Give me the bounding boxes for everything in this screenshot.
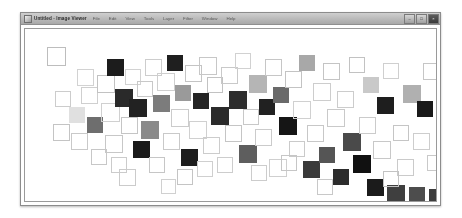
screen: Untitled - Image Viewer FileEditViewTool… [0,0,462,218]
outlined-square[interactable] [349,57,365,73]
outlined-square[interactable] [149,157,165,173]
outlined-square[interactable] [243,109,259,125]
filled-square[interactable] [319,147,335,163]
filled-square[interactable] [229,91,247,109]
filled-square[interactable] [153,95,170,112]
outlined-square[interactable] [91,149,107,165]
filled-square[interactable] [133,141,150,158]
outlined-square[interactable] [427,155,437,171]
filled-square[interactable] [377,97,394,114]
outlined-square[interactable] [97,75,115,93]
outlined-square[interactable] [383,171,399,187]
outlined-square[interactable] [397,159,414,176]
window-title: Untitled - Image Viewer [34,16,87,22]
outlined-square[interactable] [105,135,123,153]
outlined-square[interactable] [55,91,71,107]
filled-square[interactable] [181,149,198,166]
menu-bar[interactable]: FileEditViewToolsLayerFilterWindowHelp [93,16,438,22]
outlined-square[interactable] [197,161,213,177]
outlined-square[interactable] [119,169,136,186]
outlined-square[interactable] [281,155,297,171]
filled-square[interactable] [69,107,85,123]
application-icon [24,15,32,23]
outlined-square[interactable] [137,81,153,97]
outlined-square[interactable] [161,179,176,194]
outlined-square[interactable] [177,169,193,185]
outlined-square[interactable] [203,137,220,154]
outlined-square[interactable] [77,69,94,86]
outlined-square[interactable] [171,109,189,127]
outlined-square[interactable] [307,125,324,142]
outlined-square[interactable] [313,83,331,101]
filled-square[interactable] [211,107,229,125]
outlined-square[interactable] [71,133,88,150]
filled-square[interactable] [343,133,361,151]
outlined-square[interactable] [251,165,267,181]
outlined-square[interactable] [337,91,354,108]
filled-square[interactable] [353,155,371,173]
canvas-area[interactable] [24,28,437,202]
outlined-square[interactable] [81,87,98,104]
filled-square[interactable] [175,85,191,101]
outlined-square[interactable] [235,53,251,69]
outlined-square[interactable] [255,129,272,146]
menu-item-file[interactable]: File [93,16,100,22]
filled-square[interactable] [387,185,405,202]
filled-square[interactable] [107,59,124,76]
filled-square[interactable] [279,117,297,135]
outlined-square[interactable] [413,133,430,150]
application-window: Untitled - Image Viewer FileEditViewTool… [20,12,441,206]
maximize-button[interactable]: □ [416,14,427,24]
outlined-square[interactable] [293,101,311,119]
menu-item-help[interactable]: Help [226,16,235,22]
outlined-square[interactable] [423,63,437,80]
outlined-square[interactable] [327,109,345,127]
filled-square[interactable] [249,75,267,93]
outlined-square[interactable] [47,47,66,66]
outlined-square[interactable] [285,71,302,88]
menu-item-view[interactable]: View [125,16,134,22]
window-controls[interactable]: –□× [404,14,439,24]
filled-square[interactable] [367,179,384,196]
outlined-square[interactable] [225,125,242,142]
filled-square[interactable] [273,87,289,103]
menu-item-edit[interactable]: Edit [109,16,117,22]
outlined-square[interactable] [199,57,217,75]
filled-square[interactable] [409,187,425,202]
outlined-square[interactable] [121,117,138,134]
outlined-square[interactable] [53,124,70,141]
square-scatter-canvas[interactable] [25,29,436,201]
outlined-square[interactable] [323,63,340,80]
outlined-square[interactable] [217,157,233,173]
outlined-square[interactable] [393,125,409,141]
filled-square[interactable] [239,145,257,163]
outlined-square[interactable] [359,117,376,134]
menu-item-filter[interactable]: Filter [183,16,193,22]
outlined-square[interactable] [383,63,399,79]
outlined-square[interactable] [265,59,282,76]
filled-square[interactable] [429,189,437,202]
title-bar[interactable]: Untitled - Image Viewer FileEditViewTool… [21,13,440,25]
filled-square[interactable] [129,99,147,117]
outlined-square[interactable] [317,179,333,195]
filled-square[interactable] [193,93,209,109]
menu-item-tools[interactable]: Tools [144,16,154,22]
outlined-square[interactable] [157,73,175,91]
outlined-square[interactable] [221,67,238,84]
outlined-square[interactable] [163,133,180,150]
filled-square[interactable] [417,101,433,117]
filled-square[interactable] [141,121,159,139]
filled-square[interactable] [303,161,320,178]
filled-square[interactable] [299,55,315,71]
filled-square[interactable] [167,55,183,71]
minimize-button[interactable]: – [404,14,415,24]
menu-item-window[interactable]: Window [202,16,218,22]
close-button[interactable]: × [428,14,439,24]
filled-square[interactable] [333,169,349,185]
menu-item-layer[interactable]: Layer [163,16,174,22]
outlined-square[interactable] [373,141,391,159]
filled-square[interactable] [363,77,379,93]
